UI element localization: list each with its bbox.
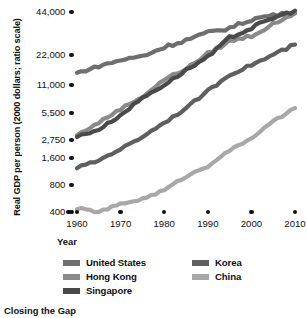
legend-label: China [215, 271, 241, 282]
x-tick-label: 1990 [197, 218, 218, 229]
plot-area [0, 0, 307, 318]
x-tick-label: 1980 [154, 218, 175, 229]
legend-swatch [63, 288, 80, 294]
legend-label: Hong Kong [86, 271, 137, 282]
legend-label: United States [86, 257, 146, 268]
x-tick-label: 2000 [241, 218, 262, 229]
legend-item[interactable]: Hong Kong [63, 270, 146, 283]
legend-swatch [63, 260, 80, 266]
legend-label: Korea [215, 257, 242, 268]
legend-label: Singapore [86, 285, 132, 296]
x-tick-label: 1960 [66, 218, 87, 229]
x-axis-title: Year [57, 236, 77, 247]
legend-column-right: KoreaChina [192, 256, 242, 284]
legend-swatch [63, 274, 80, 280]
x-tick-dot [118, 210, 123, 215]
series-line-hong-kong [77, 12, 295, 135]
chart-caption: Closing the Gap [4, 305, 76, 316]
legend-item[interactable]: China [192, 270, 242, 283]
x-tick-label: 1970 [110, 218, 131, 229]
x-tick-dot [249, 210, 254, 215]
gdp-line-chart: Real GDP per person (2000 dollars; ratio… [0, 0, 307, 318]
origin-dot [66, 210, 71, 215]
legend-swatch [192, 260, 209, 266]
legend-swatch [192, 274, 209, 280]
legend-column-left: United StatesHong KongSingapore [63, 256, 146, 298]
legend-item[interactable]: Korea [192, 256, 242, 269]
legend-item[interactable]: United States [63, 256, 146, 269]
x-tick-label: 2010 [284, 218, 305, 229]
legend-item[interactable]: Singapore [63, 284, 146, 297]
